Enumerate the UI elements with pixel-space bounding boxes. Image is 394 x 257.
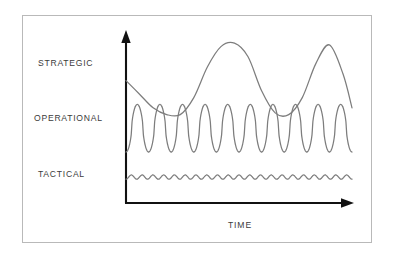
series-curve-tactical: [126, 175, 352, 179]
series-label-strategic: STRATEGIC: [38, 58, 93, 68]
series-label-tactical: TACTICAL: [38, 169, 85, 179]
arrow-right-icon: [341, 198, 354, 207]
arrow-up-icon: [121, 30, 130, 43]
series-curve-strategic: [126, 42, 352, 116]
series-label-operational: OPERATIONAL: [34, 113, 103, 123]
chart-canvas: STRATEGIC OPERATIONAL TACTICAL TIME: [0, 0, 394, 257]
figure-root: STRATEGIC OPERATIONAL TACTICAL TIME: [0, 0, 394, 257]
x-axis-title: TIME: [228, 220, 252, 230]
